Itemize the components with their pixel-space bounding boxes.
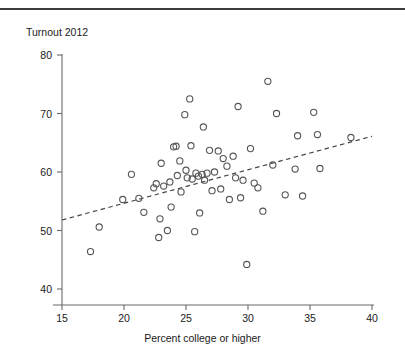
regression-trendline	[62, 136, 372, 220]
scatter-point	[182, 112, 188, 118]
scatter-point	[215, 148, 221, 154]
trendline-layer	[62, 136, 372, 220]
y-tick-label: 50	[40, 225, 52, 237]
scatter-point	[255, 185, 261, 191]
y-tick-label: 70	[40, 108, 52, 120]
scatter-point	[211, 169, 217, 175]
scatter-point	[120, 196, 126, 202]
scatter-point	[295, 133, 301, 139]
scatter-point	[202, 177, 208, 183]
scatter-point	[224, 163, 230, 169]
scatter-point	[282, 192, 288, 198]
scatter-point	[226, 196, 232, 202]
axis-layer	[53, 54, 374, 310]
scatter-point	[218, 186, 224, 192]
scatter-point	[273, 110, 279, 116]
y-tick-label: 60	[40, 166, 52, 178]
scatter-point	[230, 153, 236, 159]
scatter-point	[317, 165, 323, 171]
scatter-point	[265, 78, 271, 84]
scatter-point	[200, 124, 206, 130]
scatter-point	[237, 195, 243, 201]
scatter-point	[158, 160, 164, 166]
y-tick-label: 80	[40, 49, 52, 61]
scatter-point	[299, 193, 305, 199]
tick-label-layer: 4050607080152025303540	[40, 49, 378, 324]
scatter-point	[233, 175, 239, 181]
scatter-point	[183, 167, 189, 173]
scatter-point	[156, 234, 162, 240]
scatter-point	[168, 204, 174, 210]
x-tick-label: 15	[56, 312, 68, 324]
scatter-point	[314, 131, 320, 137]
x-tick-label: 30	[242, 312, 254, 324]
figure-container: Turnout 2012 4050607080152025303540 Perc…	[0, 0, 405, 360]
scatter-point	[247, 146, 253, 152]
x-axis-title: Percent college or higher	[0, 332, 405, 344]
scatter-point	[178, 189, 184, 195]
scatter-point	[206, 147, 212, 153]
scatter-point	[188, 143, 194, 149]
clipped-header-text	[150, 0, 400, 5]
x-tick-label: 20	[118, 312, 130, 324]
scatter-point	[157, 216, 163, 222]
scatter-point	[209, 188, 215, 194]
x-tick-label: 40	[366, 312, 378, 324]
scatter-point	[187, 96, 193, 102]
scatter-point	[240, 177, 246, 183]
scatter-point	[311, 109, 317, 115]
scatter-point	[260, 208, 266, 214]
top-horizontal-rule	[0, 8, 405, 10]
scatter-point	[161, 183, 167, 189]
scatter-point	[141, 209, 147, 215]
x-tick-label: 35	[304, 312, 316, 324]
scatter-point	[348, 134, 354, 140]
scatter-point	[192, 229, 198, 235]
scatter-plot-svg: 4050607080152025303540	[0, 0, 405, 360]
scatter-point	[292, 166, 298, 172]
y-axis-title: Turnout 2012	[26, 26, 88, 38]
scatter-point	[167, 179, 173, 185]
scatter-point	[235, 103, 241, 109]
data-points-layer	[87, 78, 354, 267]
scatter-point	[128, 171, 134, 177]
scatter-point	[174, 172, 180, 178]
y-tick-label: 40	[40, 283, 52, 295]
x-tick-label: 25	[180, 312, 192, 324]
scatter-point	[220, 155, 226, 161]
scatter-point	[177, 158, 183, 164]
scatter-point	[96, 224, 102, 230]
scatter-point	[164, 227, 170, 233]
scatter-point	[244, 261, 250, 267]
scatter-point	[197, 210, 203, 216]
scatter-point	[87, 248, 93, 254]
